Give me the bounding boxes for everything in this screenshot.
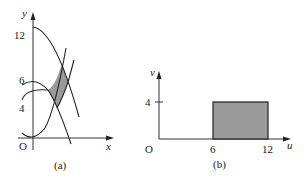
y-tick-12: 12 [14, 29, 25, 41]
u-tick-6: 6 [210, 143, 216, 155]
v-tick-4: 4 [145, 96, 151, 108]
v-axis-arrow-icon [157, 71, 162, 79]
y-tick-4: 4 [19, 102, 25, 114]
u-axis-label: u [287, 139, 293, 151]
caption-a: (a) [54, 159, 67, 172]
origin-label-b: O [145, 143, 153, 155]
panel-b: v 4 O 6 12 u (b) [145, 66, 293, 171]
caption-b: (b) [213, 158, 226, 171]
u-tick-12: 12 [262, 143, 273, 155]
panel-a: y 12 6 4 O x (a) [14, 7, 114, 172]
shaded-rectangle-b [213, 102, 268, 139]
origin-label-a: O [19, 140, 27, 152]
x-axis-label: x [105, 140, 111, 152]
y-tick-6: 6 [19, 74, 25, 86]
y-axis-label: y [21, 7, 27, 19]
v-axis-label: v [150, 66, 155, 78]
figure: y 12 6 4 O x (a) v 4 O 6 12 u (b) [0, 0, 306, 184]
y-axis-arrow-icon [31, 12, 36, 20]
curve-left-loop [22, 90, 48, 100]
